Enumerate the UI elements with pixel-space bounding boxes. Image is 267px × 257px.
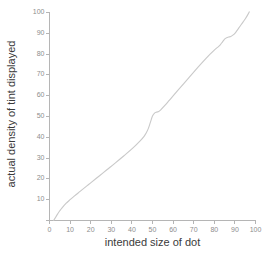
data-line-0 bbox=[54, 12, 250, 221]
y-tick-label: 70 bbox=[19, 70, 45, 77]
y-tick-label: 80 bbox=[19, 50, 45, 57]
x-tick-label: 20 bbox=[81, 226, 101, 233]
x-tick-label: 10 bbox=[60, 226, 80, 233]
x-tick-label: 0 bbox=[40, 226, 60, 233]
x-tick-label: 30 bbox=[101, 226, 121, 233]
y-tick-label: 90 bbox=[19, 29, 45, 36]
x-tick-label: 80 bbox=[204, 226, 224, 233]
y-tick-label: 20 bbox=[19, 174, 45, 181]
y-tick-label: 40 bbox=[19, 133, 45, 140]
y-axis-title: actual density of tint displayed bbox=[5, 41, 17, 188]
y-axis-title-container: actual density of tint displayed bbox=[0, 0, 22, 228]
y-tick-label: 60 bbox=[19, 91, 45, 98]
data-series-group bbox=[54, 12, 250, 221]
ticks-group bbox=[46, 13, 256, 225]
x-tick-label: 100 bbox=[246, 226, 266, 233]
y-tick-label: 50 bbox=[19, 112, 45, 119]
x-tick-label: 60 bbox=[163, 226, 183, 233]
y-tick-label: 30 bbox=[19, 154, 45, 161]
y-tick-label: 100 bbox=[19, 8, 45, 15]
chart-container: 0102030405060708090100 01020304050607080… bbox=[0, 0, 267, 257]
x-axis-title: intended size of dot bbox=[49, 236, 256, 248]
y-tick-label: 10 bbox=[19, 195, 45, 202]
plot-area bbox=[0, 0, 267, 257]
x-tick-label: 70 bbox=[184, 226, 204, 233]
x-tick-label: 40 bbox=[122, 226, 142, 233]
x-tick-label: 50 bbox=[143, 226, 163, 233]
x-tick-label: 90 bbox=[225, 226, 245, 233]
